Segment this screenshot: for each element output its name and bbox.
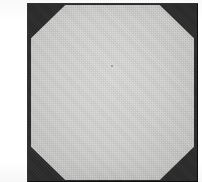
figure-canvas [0,0,202,182]
square-plate [27,3,198,182]
octagon-shading [31,5,194,180]
center-speck [111,65,113,67]
octagon-texture [31,5,194,180]
figure-caption [0,0,1,1]
octagon-shape [31,5,194,180]
